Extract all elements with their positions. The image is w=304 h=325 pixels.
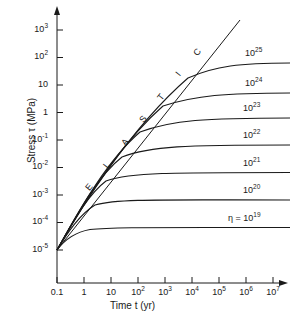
x-axis-title: Time t (yr) xyxy=(110,300,155,311)
curve-label-1e25: 1025 xyxy=(245,48,262,58)
curve-1e19 xyxy=(57,227,290,250)
x-tick-label-6: 105 xyxy=(209,287,229,297)
y-tick-label-8: 10-5 xyxy=(6,244,48,254)
x-tick-label-1: 1 xyxy=(74,287,94,297)
elastic-line xyxy=(57,20,240,250)
arrow-up-icon xyxy=(54,6,60,15)
x-tick-label-7: 106 xyxy=(236,287,256,297)
x-tick-label-3: 102 xyxy=(128,287,148,297)
y-tick-label-0: 103 xyxy=(6,24,48,34)
curve-label-1e24: 1024 xyxy=(245,78,262,88)
creep-stress-relaxation-chart: 103 102 10 1 10-1 10-2 10-3 10-4 10-5 0.… xyxy=(0,0,304,325)
curve-label-1e22: 1022 xyxy=(243,130,260,140)
curve-1e20 xyxy=(57,200,290,250)
curve-label-1e20: 1020 xyxy=(243,185,260,195)
y-tick-label-7: 10-4 xyxy=(6,216,48,226)
y-tick-label-6: 10-3 xyxy=(6,189,48,199)
x-tick-label-2: 10 xyxy=(101,287,121,297)
curve-label-1e21: 1021 xyxy=(243,158,260,168)
curve-label-1e19: η = 1019 xyxy=(228,213,261,223)
curve-label-1e23: 1023 xyxy=(243,103,260,113)
x-tick-label-0: 0.1 xyxy=(47,287,67,297)
y-tick-label-1: 102 xyxy=(6,51,48,61)
x-tick-label-5: 104 xyxy=(182,287,202,297)
y-axis-title: Stress τ (MPa) xyxy=(26,76,37,186)
y-tick-marks xyxy=(57,30,63,250)
x-tick-marks xyxy=(57,277,273,283)
x-tick-label-8: 107 xyxy=(263,287,283,297)
arrow-right-icon xyxy=(279,280,288,286)
x-tick-label-4: 103 xyxy=(155,287,175,297)
curve-1e24 xyxy=(57,93,290,250)
